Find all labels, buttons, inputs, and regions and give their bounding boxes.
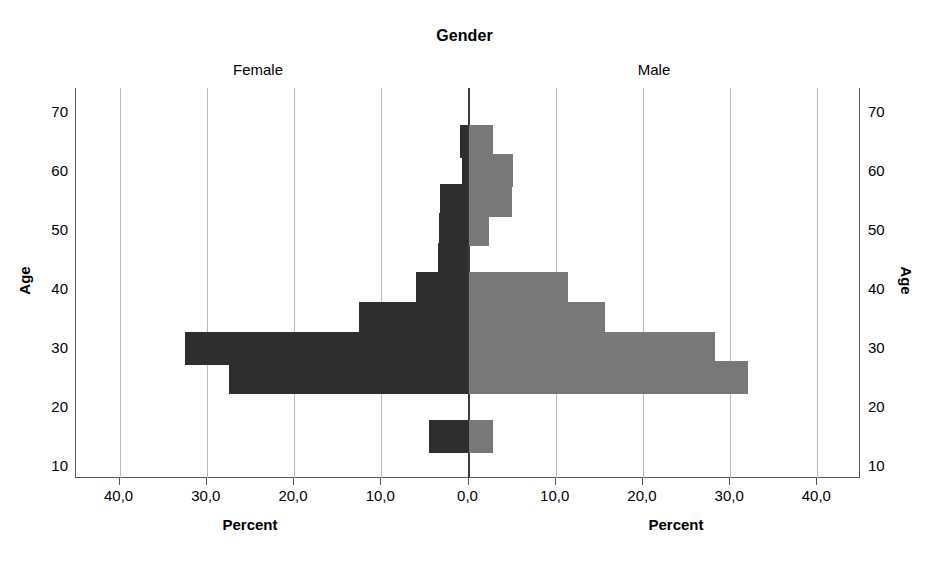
x-tick-mark [816, 478, 817, 485]
chart-title: Gender [0, 27, 929, 45]
plot-area [75, 88, 860, 478]
x-tick-mark [555, 478, 556, 485]
gridline-x [207, 88, 208, 478]
x-tick-label: 20,0 [612, 487, 672, 504]
gridline-x [381, 88, 382, 478]
bar-male-age-30 [469, 332, 716, 365]
gridline-x [817, 88, 818, 478]
bar-male-age-25 [469, 361, 748, 394]
gridline-x [120, 88, 121, 478]
bar-female-age-50 [439, 213, 469, 246]
y-tick-label-left: 30 [42, 339, 68, 357]
bar-female-age-25 [229, 361, 469, 394]
x-axis-title-left: Percent [180, 516, 320, 533]
y-tick-label-left: 50 [42, 221, 68, 239]
bar-female-age-45 [438, 243, 469, 276]
bar-male-age-35 [469, 302, 605, 335]
y-axis-title-left: Age [16, 251, 33, 311]
y-tick-label-right: 20 [868, 398, 894, 416]
y-tick-label-right: 40 [868, 280, 894, 298]
y-tick-label-left: 20 [42, 398, 68, 416]
x-tick-mark [380, 478, 381, 485]
y-tick-label-left: 60 [42, 162, 68, 180]
x-tick-label: 10,0 [525, 487, 585, 504]
x-tick-mark [729, 478, 730, 485]
y-tick-label-right: 10 [868, 457, 894, 475]
bar-male-age-60 [469, 154, 513, 187]
y-tick-label-right: 30 [868, 339, 894, 357]
y-tick-label-left: 40 [42, 280, 68, 298]
y-tick-label-right: 70 [868, 103, 894, 121]
bar-female-age-15 [429, 420, 468, 453]
bar-female-age-40 [416, 272, 468, 305]
bar-female-age-30 [185, 332, 468, 365]
panel-label-female: Female [198, 61, 318, 78]
x-axis-title-right: Percent [606, 516, 746, 533]
population-pyramid-chart: Gender Female Male 40,030,020,010,00,010… [0, 0, 929, 571]
y-tick-label-left: 10 [42, 457, 68, 475]
bar-male-age-55 [469, 184, 513, 217]
panel-label-male: Male [594, 61, 714, 78]
gridline-x [294, 88, 295, 478]
x-tick-label: 40,0 [89, 487, 149, 504]
gridline-x [643, 88, 644, 478]
bar-female-age-65 [460, 125, 469, 158]
bar-female-age-35 [359, 302, 469, 335]
x-tick-mark [642, 478, 643, 485]
bar-female-age-55 [440, 184, 469, 217]
x-tick-mark [206, 478, 207, 485]
gridline-x [730, 88, 731, 478]
x-tick-label: 10,0 [350, 487, 410, 504]
x-tick-label: 30,0 [699, 487, 759, 504]
bar-male-age-15 [469, 420, 493, 453]
x-tick-label: 0,0 [438, 487, 498, 504]
y-tick-label-right: 50 [868, 221, 894, 239]
x-tick-label: 20,0 [263, 487, 323, 504]
bar-male-age-50 [469, 213, 489, 246]
x-tick-mark [468, 478, 469, 485]
x-tick-label: 40,0 [786, 487, 846, 504]
bar-male-age-40 [469, 272, 568, 305]
bar-male-age-65 [469, 125, 493, 158]
x-tick-label: 30,0 [176, 487, 236, 504]
x-tick-mark [293, 478, 294, 485]
y-axis-title-right: Age [898, 251, 915, 311]
y-tick-label-right: 60 [868, 162, 894, 180]
y-tick-label-left: 70 [42, 103, 68, 121]
x-tick-mark [119, 478, 120, 485]
